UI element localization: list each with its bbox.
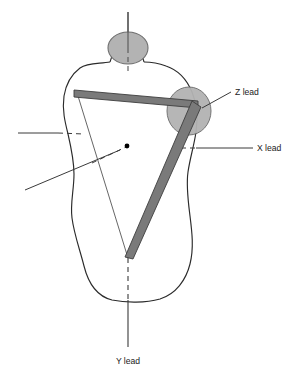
heart-center-dot <box>125 144 130 149</box>
y-lead-label: Y lead <box>116 356 140 366</box>
x-lead-label: X lead <box>257 143 282 153</box>
z-lead-label: Z lead <box>235 87 259 97</box>
ecg-lead-diagram: Z lead X lead Y lead <box>0 0 303 379</box>
